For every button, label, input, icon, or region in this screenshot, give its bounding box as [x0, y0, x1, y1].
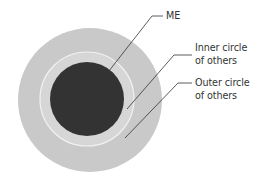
- inner-circle-label-line-1: Inner circle: [195, 42, 247, 55]
- outer-circle-label-line-1: Outer circle: [195, 77, 250, 90]
- inner-circle-label-line-2: of others: [195, 55, 247, 68]
- outer-circle-label: Outer circle of others: [195, 77, 250, 102]
- me-label-line-1: ME: [166, 10, 180, 23]
- inner-circle-label: Inner circle of others: [195, 42, 247, 67]
- circles-of-relationships-diagram: ME Inner circle of others Outer circle o…: [0, 0, 258, 178]
- me-label: ME: [166, 10, 180, 23]
- outer-circle-label-line-2: of others: [195, 90, 250, 103]
